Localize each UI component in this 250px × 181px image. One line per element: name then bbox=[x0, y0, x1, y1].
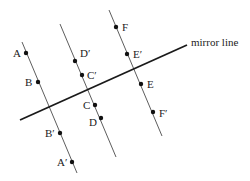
point: B′ bbox=[45, 127, 62, 139]
point-marker bbox=[73, 59, 77, 63]
point-label: B bbox=[25, 76, 32, 88]
point: E bbox=[139, 78, 154, 90]
point-marker bbox=[58, 131, 62, 135]
point-label: E′ bbox=[133, 48, 142, 60]
point: C′ bbox=[80, 69, 97, 81]
point-label: B′ bbox=[45, 127, 55, 139]
point-label: F bbox=[122, 21, 128, 33]
point: A′ bbox=[57, 156, 74, 168]
point: F bbox=[114, 21, 128, 33]
point-label: A bbox=[13, 47, 21, 59]
point-marker bbox=[99, 116, 103, 120]
point-marker bbox=[114, 25, 118, 29]
point: A bbox=[13, 47, 28, 59]
point-label: C bbox=[83, 99, 90, 111]
perpendicular-line-2 bbox=[60, 24, 116, 157]
perpendicular-lines bbox=[22, 10, 162, 173]
point-label: D′ bbox=[80, 47, 90, 59]
point-label: A′ bbox=[57, 156, 67, 168]
point-label: D bbox=[89, 116, 97, 128]
point-marker bbox=[36, 80, 40, 84]
point-label: C′ bbox=[87, 69, 97, 81]
point-marker bbox=[125, 52, 129, 56]
point-label: F′ bbox=[159, 107, 168, 119]
point: C bbox=[83, 99, 97, 111]
point-marker bbox=[139, 82, 143, 86]
mirror-line-label: mirror line bbox=[191, 36, 238, 48]
reflection-diagram: mirror line ABB′A′D′C′CDFE′EF′ bbox=[0, 0, 250, 181]
point-label: E bbox=[147, 78, 154, 90]
point: D′ bbox=[73, 47, 91, 63]
point-marker bbox=[80, 73, 84, 77]
point-marker bbox=[70, 160, 74, 164]
point: E′ bbox=[125, 48, 142, 60]
point-marker bbox=[93, 103, 97, 107]
point: B bbox=[25, 76, 40, 88]
point: F′ bbox=[151, 107, 168, 119]
point-marker bbox=[24, 51, 28, 55]
point-marker bbox=[151, 110, 155, 114]
